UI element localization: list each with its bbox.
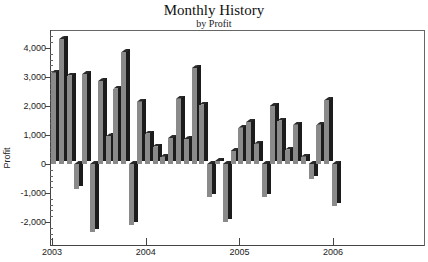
x-tick-label: 2003	[42, 247, 62, 257]
y-minor-tick	[50, 181, 53, 182]
y-minor-tick	[50, 210, 53, 211]
y-tick-label: -2,000	[20, 217, 46, 227]
chart-title: Monthly History	[0, 2, 428, 19]
bar-2005-12	[324, 100, 333, 164]
bar-2003-10	[121, 52, 130, 164]
y-tick-label: 3,000	[23, 72, 46, 82]
y-minor-tick	[50, 205, 53, 206]
x-axis-line	[50, 245, 424, 246]
y-tick-label: -1,000	[20, 188, 46, 198]
x-tick-label: 2004	[136, 247, 156, 257]
y-minor-tick	[50, 187, 53, 188]
y-minor-tick	[50, 65, 53, 66]
bar-2005-03	[254, 144, 263, 164]
x-tick-label: 2006	[323, 247, 343, 257]
y-minor-tick	[50, 199, 53, 200]
x-tick-mark	[333, 238, 334, 246]
y-minor-tick	[50, 234, 53, 235]
bar-2003-03	[67, 76, 76, 164]
bar-2005-10	[309, 164, 318, 179]
x-tick-mark	[239, 238, 240, 246]
chart-subtitle: by Profit	[0, 18, 428, 29]
x-tick-label: 2005	[229, 247, 249, 257]
bar-2006-01	[332, 164, 341, 206]
bar-2004-11	[223, 164, 232, 222]
y-tick-label: 4,000	[23, 43, 46, 53]
bar-2003-06	[90, 164, 99, 232]
y-axis-label: Profit	[2, 147, 12, 168]
y-tick-label: 1,000	[23, 130, 46, 140]
bar-2003-04	[74, 164, 83, 189]
bar-2003-11	[129, 164, 138, 225]
y-minor-tick	[50, 60, 53, 61]
y-minor-tick	[50, 36, 53, 37]
bar-2004-08	[199, 105, 208, 164]
y-minor-tick	[50, 176, 53, 177]
y-minor-tick	[50, 216, 53, 217]
y-minor-tick	[50, 228, 53, 229]
y-minor-tick	[50, 170, 53, 171]
bar-2003-05	[82, 74, 91, 164]
x-tick-mark	[52, 238, 53, 246]
y-tick-mark	[45, 164, 51, 165]
y-tick-mark	[45, 48, 51, 49]
y-minor-tick	[50, 42, 53, 43]
bar-2005-04	[262, 164, 271, 197]
y-tick-label: 2,000	[23, 101, 46, 111]
bar-2004-09	[207, 164, 216, 197]
y-minor-tick	[50, 54, 53, 55]
y-tick-mark	[45, 193, 51, 194]
y-tick-mark	[45, 222, 51, 223]
bar-2005-09	[301, 157, 310, 164]
x-tick-mark	[146, 238, 147, 246]
